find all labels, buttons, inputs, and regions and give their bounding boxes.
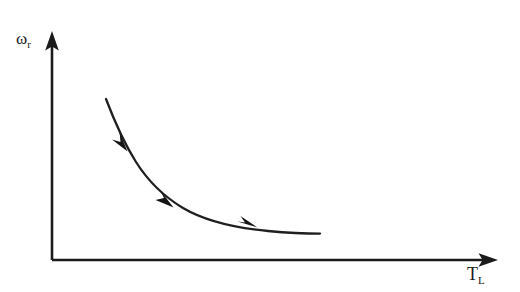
y-axis-label-symbol: ω bbox=[16, 29, 27, 48]
characteristic-curve bbox=[106, 99, 320, 234]
y-axis-label: ωr bbox=[16, 30, 31, 50]
x-axis-label-symbol: T bbox=[467, 264, 478, 284]
x-axis-label: TL bbox=[467, 265, 485, 286]
curve-flow-arrowhead-3-icon bbox=[238, 216, 258, 227]
figure-canvas: ωr TL bbox=[0, 0, 520, 292]
y-axis-label-subscript: r bbox=[27, 38, 31, 50]
x-axis-label-subscript: L bbox=[478, 274, 485, 286]
plot-svg bbox=[0, 0, 520, 292]
